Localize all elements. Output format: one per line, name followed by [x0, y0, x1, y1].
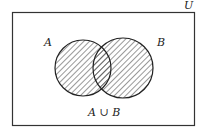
set-b-label: B — [156, 36, 165, 49]
universe-label: U — [184, 0, 194, 12]
union-caption: A ∪ B — [87, 106, 120, 119]
set-a-label: A — [43, 36, 52, 49]
venn-diagram: U A B A ∪ B — [0, 0, 198, 131]
